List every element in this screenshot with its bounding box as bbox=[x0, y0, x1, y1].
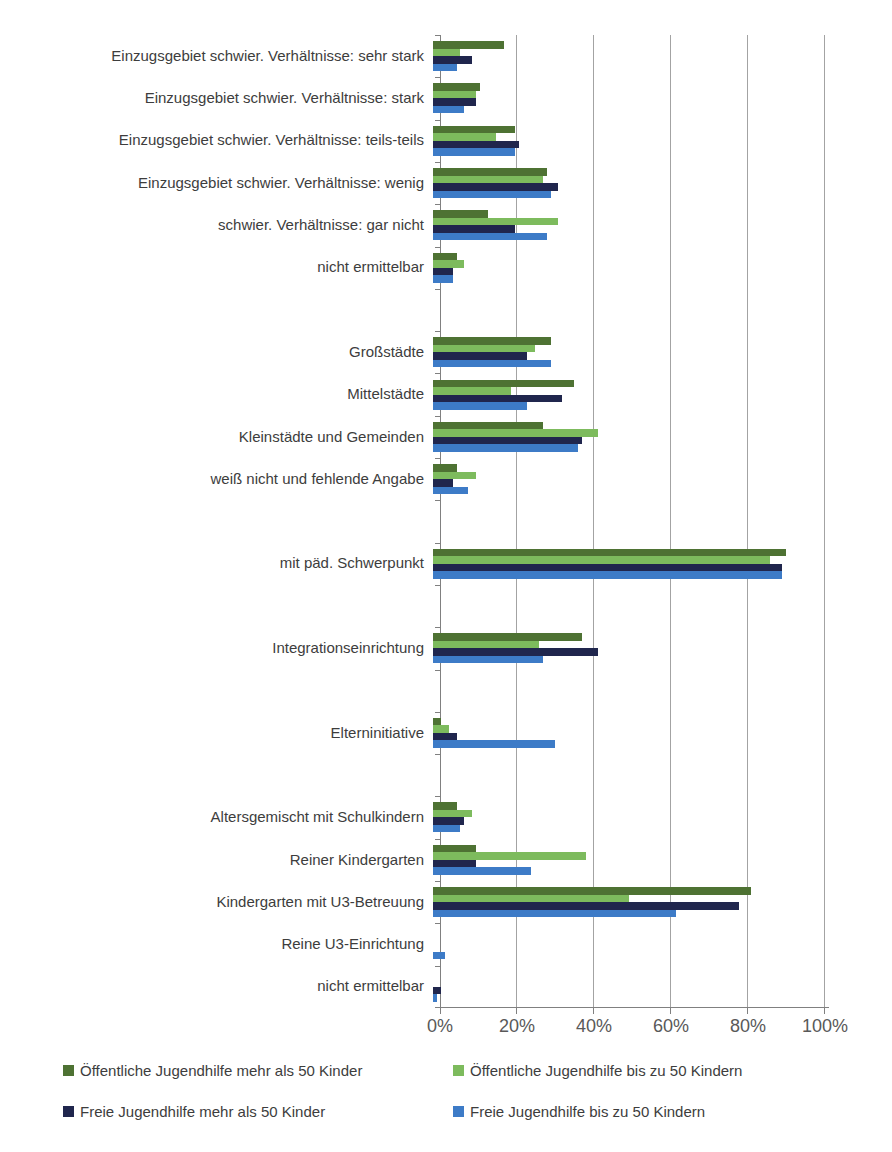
spacer-row bbox=[0, 500, 825, 542]
bar bbox=[433, 487, 468, 495]
bar bbox=[433, 733, 457, 741]
bar bbox=[433, 41, 504, 49]
legend-item: Öffentliche Jugendhilfe bis zu 50 Kinder… bbox=[453, 1062, 833, 1079]
scanned-chart-page: Einzugsgebiet schwier. Verhältnisse: seh… bbox=[0, 0, 892, 1152]
category-row: nicht ermittelbar bbox=[0, 966, 825, 1008]
bar bbox=[433, 141, 519, 149]
x-axis-label: 40% bbox=[576, 1016, 612, 1037]
bar-group bbox=[433, 627, 825, 669]
bar bbox=[433, 825, 460, 833]
bar bbox=[433, 183, 558, 191]
category-label: schwier. Verhältnisse: gar nicht bbox=[0, 217, 433, 234]
bar bbox=[433, 126, 515, 134]
bar bbox=[433, 218, 558, 226]
bar bbox=[433, 225, 515, 233]
bar-group bbox=[433, 458, 825, 500]
bar bbox=[433, 994, 437, 1002]
bar bbox=[433, 472, 476, 480]
bar-group bbox=[433, 712, 825, 754]
bar-rows: Einzugsgebiet schwier. Verhältnisse: seh… bbox=[0, 35, 825, 1008]
category-row: Großstädte bbox=[0, 331, 825, 373]
legend-label: Freie Jugendhilfe bis zu 50 Kindern bbox=[470, 1103, 705, 1120]
bar-group bbox=[433, 796, 825, 838]
bar bbox=[433, 648, 598, 656]
spacer-row bbox=[0, 289, 825, 331]
bar bbox=[433, 740, 555, 748]
category-label: nicht ermittelbar bbox=[0, 978, 433, 995]
bar bbox=[433, 810, 472, 818]
bar bbox=[433, 479, 453, 487]
category-row: Einzugsgebiet schwier. Verhältnisse: wen… bbox=[0, 162, 825, 204]
bar bbox=[433, 352, 527, 360]
bar bbox=[433, 360, 551, 368]
bar bbox=[433, 422, 543, 430]
bar bbox=[433, 571, 782, 579]
bar bbox=[433, 802, 457, 810]
bar-group bbox=[433, 416, 825, 458]
bar bbox=[433, 345, 535, 353]
bar-group bbox=[433, 35, 825, 77]
legend-item: Freie Jugendhilfe bis zu 50 Kindern bbox=[453, 1103, 833, 1120]
bar bbox=[433, 633, 582, 641]
bar-group bbox=[433, 77, 825, 119]
legend-swatch-icon bbox=[453, 1065, 464, 1076]
bar bbox=[433, 845, 476, 853]
bar bbox=[433, 395, 562, 403]
bar bbox=[433, 817, 464, 825]
bar bbox=[433, 887, 751, 895]
bar bbox=[433, 437, 582, 445]
bar bbox=[433, 268, 453, 276]
bar bbox=[433, 549, 786, 557]
category-row: Einzugsgebiet schwier. Verhältnisse: seh… bbox=[0, 35, 825, 77]
category-row: Mittelstädte bbox=[0, 373, 825, 415]
x-axis-label: 60% bbox=[653, 1016, 689, 1037]
category-label: Reiner Kindergarten bbox=[0, 852, 433, 869]
x-axis-tick bbox=[440, 1008, 441, 1014]
spacer-row bbox=[0, 669, 825, 711]
bar bbox=[433, 641, 539, 649]
category-row: schwier. Verhältnisse: gar nicht bbox=[0, 204, 825, 246]
category-label: Altersgemischt mit Schulkindern bbox=[0, 809, 433, 826]
bar-group bbox=[433, 331, 825, 373]
x-axis-tick bbox=[747, 1008, 748, 1014]
category-row: Reiner Kindergarten bbox=[0, 839, 825, 881]
legend-label: Öffentliche Jugendhilfe mehr als 50 Kind… bbox=[80, 1062, 362, 1079]
bar-group bbox=[433, 923, 825, 965]
category-row: weiß nicht und fehlende Angabe bbox=[0, 458, 825, 500]
legend-swatch-icon bbox=[63, 1106, 74, 1117]
legend-item: Freie Jugendhilfe mehr als 50 Kinder bbox=[63, 1103, 453, 1120]
x-axis-tick bbox=[670, 1008, 671, 1014]
category-label: Kindergarten mit U3-Betreuung bbox=[0, 894, 433, 911]
bar-group bbox=[433, 289, 825, 331]
x-axis-tick bbox=[593, 1008, 594, 1014]
bar bbox=[433, 176, 543, 184]
bar bbox=[433, 191, 551, 199]
bar-group bbox=[433, 162, 825, 204]
bar-group bbox=[433, 669, 825, 711]
x-axis-label: 20% bbox=[499, 1016, 535, 1037]
x-axis-label: 0% bbox=[427, 1016, 453, 1037]
bar bbox=[433, 168, 547, 176]
bar bbox=[433, 49, 460, 57]
category-row: Elterninitiative bbox=[0, 712, 825, 754]
legend-label: Freie Jugendhilfe mehr als 50 Kinder bbox=[80, 1103, 325, 1120]
bar-group bbox=[433, 543, 825, 585]
category-row: Einzugsgebiet schwier. Verhältnisse: tei… bbox=[0, 120, 825, 162]
x-axis-label: 80% bbox=[730, 1016, 766, 1037]
bar bbox=[433, 83, 480, 91]
bar bbox=[433, 952, 445, 960]
category-row: Kleinstädte und Gemeinden bbox=[0, 416, 825, 458]
category-label: Einzugsgebiet schwier. Verhältnisse: seh… bbox=[0, 48, 433, 65]
bar bbox=[433, 556, 770, 564]
legend-swatch-icon bbox=[63, 1065, 74, 1076]
bar bbox=[433, 233, 547, 241]
legend-item: Öffentliche Jugendhilfe mehr als 50 Kind… bbox=[63, 1062, 453, 1079]
bar-group bbox=[433, 500, 825, 542]
category-label: Kleinstädte und Gemeinden bbox=[0, 429, 433, 446]
bar bbox=[433, 387, 511, 395]
bar bbox=[433, 718, 441, 726]
bar bbox=[433, 852, 586, 860]
bar bbox=[433, 275, 453, 283]
bar-group bbox=[433, 120, 825, 162]
category-label: Reine U3-Einrichtung bbox=[0, 936, 433, 953]
